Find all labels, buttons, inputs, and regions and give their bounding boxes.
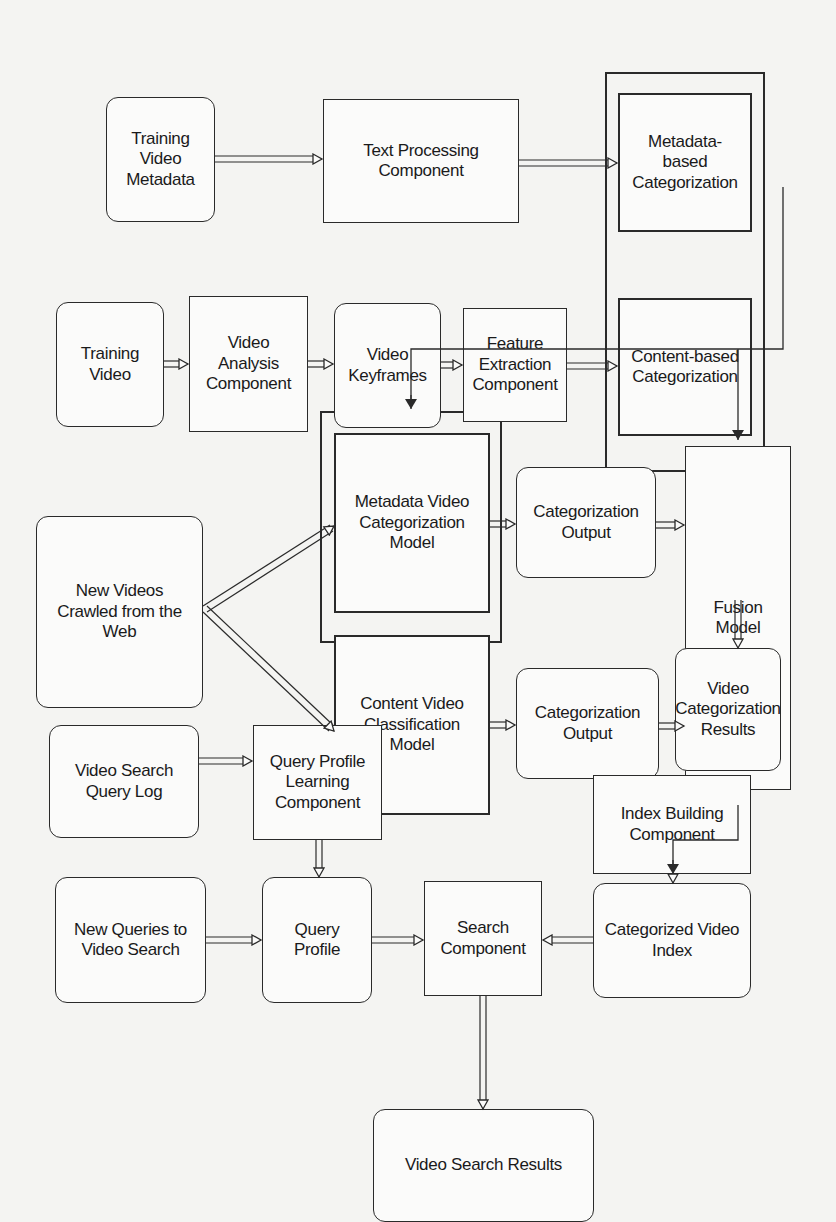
arrow-trainingvideo-to-analysis bbox=[164, 361, 188, 367]
arrow-feature-to-content-cat bbox=[567, 363, 617, 369]
arrow-profile-learning-to-profile bbox=[316, 840, 322, 877]
arrow-results-to-indexbuilding bbox=[673, 805, 738, 874]
arrow-search-to-results bbox=[480, 996, 486, 1109]
arrow-keyframes-to-feature bbox=[441, 362, 462, 368]
arrow-metadata-to-textproc bbox=[215, 156, 322, 162]
arrow-fusion-to-results bbox=[735, 600, 741, 648]
arrow-index-to-search bbox=[543, 937, 593, 943]
video-search-results-node: Video Search Results bbox=[373, 1109, 594, 1222]
arrow-output1-to-fusion bbox=[656, 522, 684, 528]
arrow-newqueries-to-profile bbox=[206, 937, 261, 943]
arrow-querylog-to-profile-learning bbox=[199, 758, 252, 764]
arrow-indexbuilding-to-index bbox=[670, 874, 676, 883]
arrow-training-to-models bbox=[411, 187, 783, 409]
arrow-profile-to-search bbox=[372, 937, 423, 943]
arrow-analysis-to-keyframes bbox=[308, 361, 333, 367]
arrow-output2-to-fusion bbox=[659, 723, 684, 729]
arrow-metadata-model-to-output1 bbox=[490, 521, 515, 527]
arrow-content-model-to-output2 bbox=[490, 722, 515, 728]
arrow-crawled-to-content-model bbox=[203, 606, 334, 731]
arrow-textproc-to-metadata-cat bbox=[519, 160, 617, 166]
arrow-crawled-to-metadata-model bbox=[203, 525, 334, 612]
